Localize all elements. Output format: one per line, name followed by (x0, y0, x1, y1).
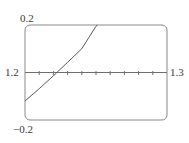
y-max-label: 0.2 (20, 12, 34, 24)
function-plot: 0.2 −0.2 1.2 1.3 (0, 0, 189, 143)
y-min-label: −0.2 (13, 123, 33, 135)
x-max-label: 1.3 (170, 66, 184, 78)
function-curve (25, 25, 97, 101)
x-min-label: 1.2 (5, 66, 19, 78)
